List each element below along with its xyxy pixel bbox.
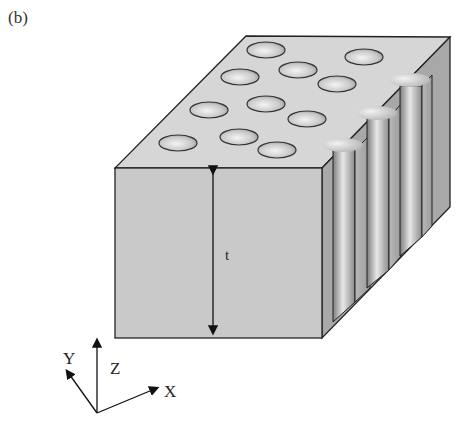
axis-label-y: Y bbox=[63, 349, 75, 368]
axis-label-x: X bbox=[164, 382, 176, 401]
axis-label-z: Z bbox=[110, 359, 120, 378]
block-front-face bbox=[115, 168, 322, 338]
porous-block-diagram: t Y Z X bbox=[0, 0, 468, 426]
